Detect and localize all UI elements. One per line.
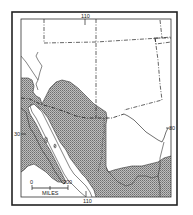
scale-start-label: 0 — [30, 179, 33, 185]
scale-unit-label: MILES — [42, 190, 59, 196]
island — [54, 144, 56, 148]
longitude-label-bottom: 110 — [83, 198, 92, 204]
scale-end-label: 200 — [63, 179, 72, 185]
range-map: 110 110 30 30 0 200 MILES — [0, 0, 193, 215]
longitude-label-top: 110 — [81, 13, 90, 19]
island — [45, 137, 48, 143]
latitude-label-left: 30 — [14, 131, 20, 137]
latitude-label-right: 30 — [169, 125, 175, 131]
